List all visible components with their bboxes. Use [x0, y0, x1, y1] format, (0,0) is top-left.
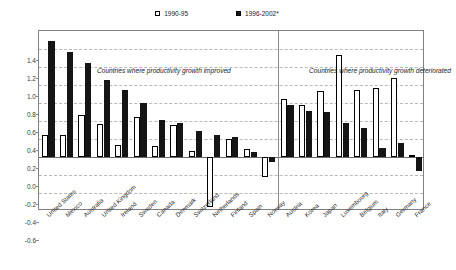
- x-axis-label: Italy: [376, 205, 389, 218]
- x-axis-label: Austria: [284, 200, 303, 218]
- x-axis-label: Ireland: [119, 200, 138, 218]
- x-axis-label: Spain: [247, 202, 263, 218]
- x-axis-label: Canada: [155, 198, 176, 218]
- x-axis-label: Norway: [266, 199, 286, 218]
- x-axis-label: Japan: [321, 202, 338, 219]
- x-axis-label: Korea: [303, 202, 320, 218]
- x-axis-label: Sweden: [137, 198, 158, 218]
- x-axis-label: France: [413, 200, 432, 218]
